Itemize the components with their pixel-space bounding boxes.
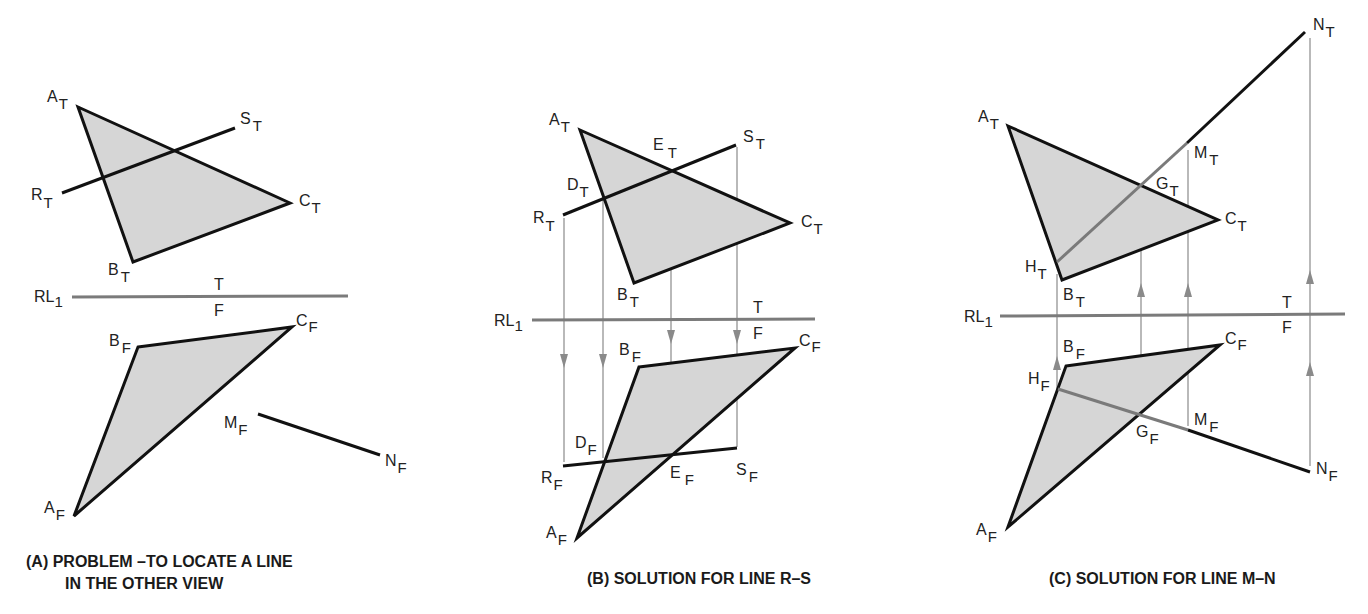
label-front-view-f: F	[214, 302, 224, 319]
label-top-view-t: T	[214, 276, 224, 293]
label-front-view-f: F	[753, 325, 763, 342]
plane-abc-front-view	[577, 348, 795, 538]
label-n-front: NF	[1316, 460, 1338, 484]
panel-c: AT NT MT GT CT HT BT RL1 T F BF CF HF MF…	[964, 16, 1345, 587]
label-s-top: ST	[743, 128, 765, 152]
line-mn-front-view	[258, 414, 380, 455]
label-h-top: HT	[1025, 258, 1047, 282]
label-s-top: ST	[240, 110, 262, 134]
panel-a: AT ST RT CT BT RL1 T F BF CF MF NF AF (A…	[26, 88, 407, 592]
arrow-down-icon	[667, 330, 675, 344]
plane-abc-top-view	[1008, 126, 1218, 280]
arrow-up-icon	[1306, 362, 1314, 376]
label-top-view-t: T	[1282, 294, 1292, 311]
caption-b: (B) SOLUTION FOR LINE R–S	[587, 570, 811, 587]
arrow-down-icon	[560, 354, 568, 368]
caption-a-line2: IN THE OTHER VIEW	[65, 575, 224, 592]
arrow-up-icon	[1137, 283, 1145, 297]
reference-line-rl1	[72, 296, 348, 297]
label-c-top: CT	[299, 192, 321, 216]
label-front-view-f: F	[1282, 319, 1292, 336]
reference-line-rl1	[532, 319, 815, 320]
label-c-front: CF	[1225, 330, 1247, 353]
arrow-up-icon	[1184, 283, 1192, 297]
plane-abc-front-view	[1008, 345, 1220, 527]
label-r-top: RT	[533, 209, 555, 234]
label-rl1: RL1	[964, 308, 993, 330]
reference-line-rl1	[1000, 314, 1345, 316]
descriptive-geometry-figure: AT ST RT CT BT RL1 T F BF CF MF NF AF (A…	[0, 0, 1368, 614]
label-b-front: BF	[109, 332, 131, 356]
panel-b: AT ET ST DT RT CT BT RL1 T F BF CF DF RF…	[494, 111, 823, 587]
arrow-up-icon	[1053, 356, 1061, 370]
label-a-front: AF	[44, 499, 65, 523]
label-e-front: EF	[670, 464, 694, 488]
caption-c: (C) SOLUTION FOR LINE M–N	[1049, 570, 1276, 587]
caption-a-line1: (A) PROBLEM –TO LOCATE A LINE	[26, 553, 293, 570]
arrow-down-icon	[599, 354, 607, 368]
label-m-top: MT	[1194, 144, 1219, 168]
label-a-top: AT	[47, 88, 68, 112]
arrow-up-icon	[1306, 270, 1314, 284]
label-a-top: AT	[978, 108, 999, 132]
plane-abc-front-view	[74, 327, 292, 516]
label-c-front: CF	[296, 312, 318, 335]
label-rl1: RL1	[34, 288, 63, 310]
label-b-top: BT	[1063, 286, 1085, 310]
label-g-front: GF	[1136, 423, 1159, 447]
plane-abc-top-view	[580, 130, 790, 283]
label-b-front: BF	[619, 341, 641, 365]
label-n-top: NT	[1313, 16, 1335, 40]
label-c-top: CT	[801, 213, 823, 237]
label-h-front: HF	[1028, 370, 1050, 394]
label-a-front: AF	[976, 521, 997, 545]
label-a-top: AT	[549, 111, 570, 135]
label-s-front: SF	[736, 461, 758, 485]
label-a-front: AF	[546, 524, 567, 548]
label-b-top: BT	[617, 286, 639, 310]
label-b-front: BF	[1063, 338, 1085, 362]
label-c-front: CF	[799, 332, 821, 355]
label-d-front: DF	[575, 434, 597, 458]
label-m-front: MF	[1194, 411, 1219, 435]
label-m-front: MF	[224, 414, 248, 438]
label-d-top: DT	[567, 176, 589, 200]
label-b-top: BT	[108, 261, 130, 285]
line-mn-top-view	[1187, 32, 1305, 143]
label-r-front: RF	[541, 469, 563, 493]
line-mn-front-view	[1188, 430, 1310, 472]
label-r-top: RT	[31, 186, 53, 211]
label-top-view-t: T	[753, 299, 763, 316]
label-n-front: NF	[385, 452, 407, 476]
label-e-top: ET	[653, 136, 677, 161]
arrow-down-icon	[733, 330, 741, 344]
label-rl1: RL1	[494, 312, 523, 334]
label-c-top: CT	[1225, 210, 1247, 234]
